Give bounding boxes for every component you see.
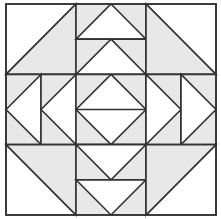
quilt-block-svg [0,0,221,219]
quilt-block-diagram [0,0,221,219]
